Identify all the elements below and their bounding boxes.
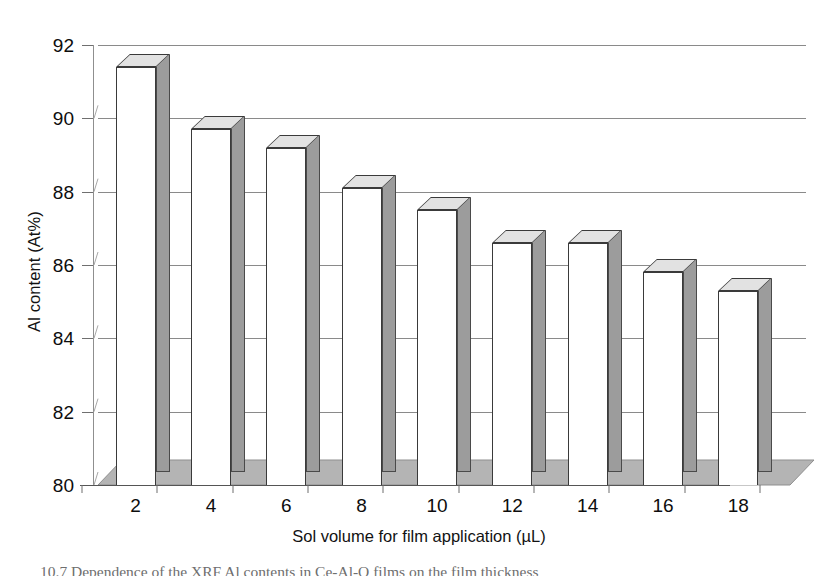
- x-axis-title: Sol volume for film application (µL): [0, 527, 838, 546]
- bar-column: [417, 197, 471, 485]
- bar-front-face: [643, 272, 683, 485]
- x-axis-tick-mark: [157, 485, 158, 493]
- bar-column: [342, 175, 396, 485]
- x-axis-tick-label: 14: [577, 496, 598, 515]
- bar-side-face: [382, 175, 396, 472]
- x-axis-tick-mark: [458, 485, 459, 493]
- bar-front-face: [191, 129, 231, 485]
- bar-side-face: [532, 230, 546, 472]
- bar-side-face: [457, 197, 471, 472]
- bar-side-face: [306, 135, 320, 472]
- bar-column: [568, 230, 622, 485]
- x-axis-tick-mark: [82, 485, 83, 493]
- x-axis-tick-mark: [684, 485, 685, 493]
- x-axis-tick-label: 2: [130, 496, 141, 515]
- bar-front-face: [718, 291, 758, 485]
- x-axis-tick-label: 12: [502, 496, 523, 515]
- bar-side-face: [231, 116, 245, 472]
- x-axis-tick-label: 6: [281, 496, 292, 515]
- figure-3d-bar-chart: Al content (At%) 80828486889092 24681012…: [0, 0, 838, 576]
- x-axis-tick-mark: [760, 485, 761, 493]
- x-axis-tick-mark: [232, 485, 233, 493]
- bar-side-face: [758, 278, 772, 472]
- x-axis-tick-label: 16: [652, 496, 673, 515]
- bar-column: [492, 230, 546, 485]
- x-axis-tick-label: 8: [356, 496, 367, 515]
- x-axis-tick-mark: [534, 485, 535, 493]
- x-axis-tick-mark: [383, 485, 384, 493]
- x-axis-tick-mark: [308, 485, 309, 493]
- bar-side-face: [156, 54, 170, 472]
- x-axis-tick-label: 18: [728, 496, 749, 515]
- bar-side-face: [683, 259, 697, 472]
- bar-column: [718, 278, 772, 485]
- bar-front-face: [342, 188, 382, 485]
- bar-column: [191, 116, 245, 485]
- bar-front-face: [568, 243, 608, 485]
- bar-side-face: [608, 230, 622, 472]
- x-axis-tick-mark: [609, 485, 610, 493]
- x-axis-line: [80, 485, 730, 486]
- bar-front-face: [492, 243, 532, 485]
- bar-front-face: [266, 148, 306, 485]
- bar-column: [643, 259, 697, 485]
- x-axis-tick-label: 4: [206, 496, 217, 515]
- x-axis-tick-label: 10: [426, 496, 447, 515]
- bar-front-face: [417, 210, 457, 485]
- bar-column: [116, 54, 170, 485]
- bar-front-face: [116, 67, 156, 485]
- bar-column: [266, 135, 320, 485]
- figure-caption-partial: 10.7 Dependence of the XRF Al contents i…: [40, 563, 740, 576]
